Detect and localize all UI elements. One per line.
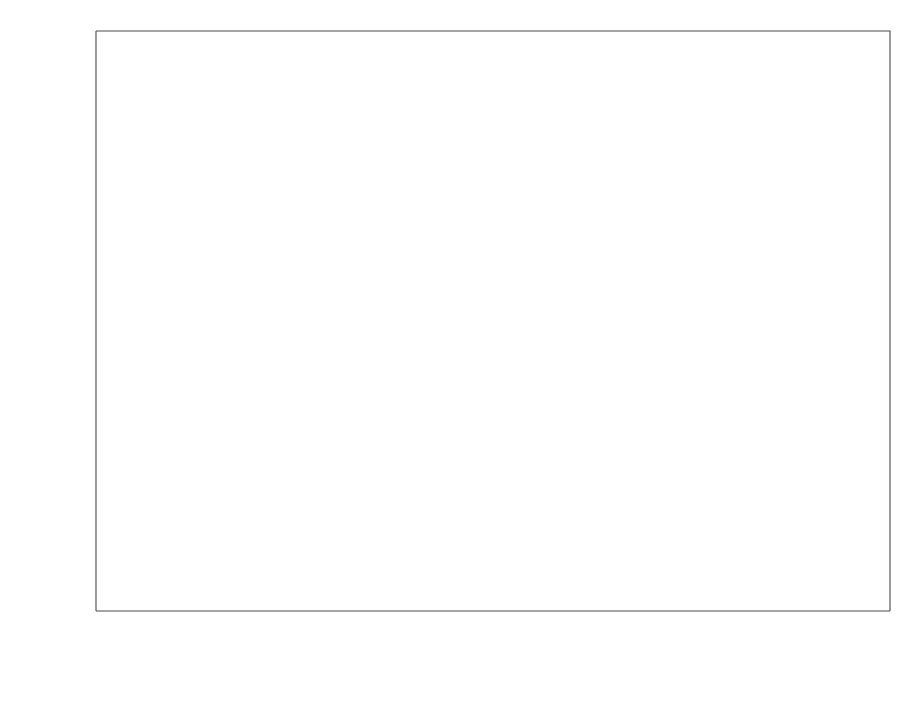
failure-model-chart-figure [0, 0, 922, 710]
plot-frame-top-right [96, 31, 890, 611]
plot-canvas [0, 0, 922, 710]
